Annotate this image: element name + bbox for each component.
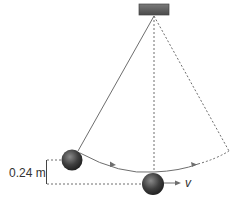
arc-arrow-icon xyxy=(110,162,116,168)
swing-arc-dashed xyxy=(198,151,229,164)
pendulum-string xyxy=(78,16,154,151)
pendulum-diagram: 0.24 m v xyxy=(0,0,243,203)
swing-arc xyxy=(80,153,198,172)
ceiling-support xyxy=(139,4,169,15)
arc-arrow-icon xyxy=(191,162,197,167)
velocity-arrowhead-icon xyxy=(175,181,181,186)
right-dashed-string xyxy=(154,16,229,151)
pendulum-ball-raised xyxy=(62,150,83,171)
height-label: 0.24 m xyxy=(9,166,46,180)
velocity-label: v xyxy=(185,176,191,190)
pendulum-ball-lowest xyxy=(142,173,164,195)
